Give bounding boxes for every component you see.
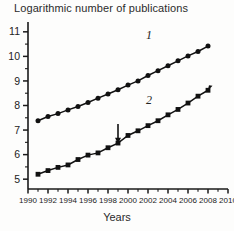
data-point [126, 133, 131, 138]
data-point [186, 101, 191, 106]
x-tick-label: 2008 [199, 196, 217, 205]
data-point [86, 153, 91, 158]
data-point [136, 128, 141, 133]
x-tick-label: 1992 [39, 196, 57, 205]
series-1: 1 [36, 28, 211, 124]
data-point [126, 83, 131, 88]
data-point [96, 151, 101, 156]
data-point [36, 118, 41, 123]
data-point [176, 58, 181, 63]
data-point [156, 118, 161, 123]
data-point [166, 63, 171, 68]
data-point [106, 145, 111, 150]
data-point [136, 78, 141, 83]
y-tick-label: 9 [14, 75, 20, 87]
data-point [46, 114, 51, 119]
data-point [106, 91, 111, 96]
data-point [196, 49, 201, 54]
data-point [66, 163, 71, 168]
y-tick-label: 8 [14, 99, 20, 111]
data-point [116, 87, 121, 92]
data-point [96, 96, 101, 101]
y-tick-label: 7 [14, 124, 20, 136]
y-axis: 567891011 [8, 22, 28, 189]
data-point [36, 172, 41, 177]
y-tick-label: 6 [14, 148, 20, 160]
series-line [38, 46, 208, 121]
data-point [76, 104, 81, 109]
data-point [196, 94, 201, 99]
y-tick-label: 11 [9, 25, 20, 37]
series-line [38, 90, 208, 174]
data-point [176, 107, 181, 112]
x-axis-title: Years [0, 211, 234, 223]
x-tick-label: 2002 [139, 196, 157, 205]
x-tick-label: 1998 [99, 196, 117, 205]
data-point [86, 100, 91, 105]
x-axis: 1990199219941996199820002002200420062008… [19, 189, 234, 205]
series-label-2: 2 [146, 93, 152, 107]
chart-figure: Logarithmic number of publications 56789… [0, 0, 234, 231]
series-2: 2 [36, 85, 213, 176]
y-tick-label: 5 [14, 173, 20, 185]
x-tick-label: 1994 [59, 196, 77, 205]
x-tick-label: 2004 [159, 196, 177, 205]
data-point [56, 111, 61, 116]
series-label-1: 1 [146, 28, 152, 42]
x-tick-label: 2000 [119, 196, 137, 205]
x-tick-label: 1996 [79, 196, 97, 205]
data-point [166, 112, 171, 117]
chart-plot-area: 567891011 199019921994199619982000200220… [0, 0, 234, 231]
data-point [146, 73, 151, 78]
data-point [156, 68, 161, 73]
data-point [66, 107, 71, 112]
data-point [186, 53, 191, 58]
data-point [146, 123, 151, 128]
y-tick-label: 10 [8, 50, 20, 62]
data-point [76, 157, 81, 162]
data-point [46, 168, 51, 173]
x-tick-label: 1990 [19, 196, 37, 205]
data-series-group: 12 [36, 28, 213, 177]
data-point [206, 44, 211, 49]
data-point [56, 165, 61, 170]
x-tick-label: 2010 [219, 196, 234, 205]
x-tick-label: 2006 [179, 196, 197, 205]
